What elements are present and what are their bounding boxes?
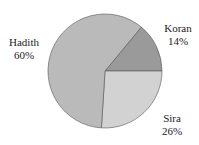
label-koran-name: Koran bbox=[158, 22, 198, 35]
label-sira-name: Sira bbox=[152, 112, 192, 125]
label-hadith-pct: 60% bbox=[4, 49, 44, 62]
label-sira-pct: 26% bbox=[152, 125, 192, 138]
label-hadith-name: Hadith bbox=[4, 36, 44, 49]
label-sira: Sira 26% bbox=[152, 112, 192, 138]
label-koran-pct: 14% bbox=[158, 35, 198, 48]
label-koran: Koran 14% bbox=[158, 22, 198, 48]
label-hadith: Hadith 60% bbox=[4, 36, 44, 62]
